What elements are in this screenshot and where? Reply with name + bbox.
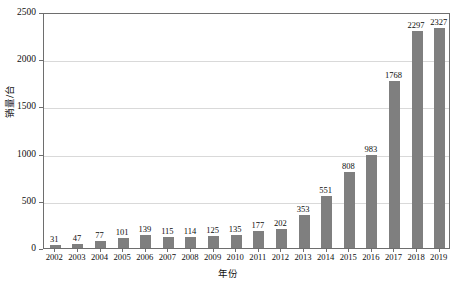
bar[interactable] (50, 245, 61, 248)
bar[interactable] (276, 229, 287, 248)
y-axis-tick-label: 2500 (0, 8, 36, 18)
bar-value-label: 353 (289, 205, 317, 214)
bar[interactable] (163, 237, 174, 248)
bar[interactable] (434, 28, 445, 248)
bar[interactable] (389, 81, 400, 248)
bar[interactable] (185, 237, 196, 248)
bar[interactable] (366, 155, 377, 248)
bar[interactable] (231, 235, 242, 248)
bar-value-label: 2327 (425, 18, 453, 27)
bar[interactable] (140, 235, 151, 248)
bar[interactable] (72, 244, 83, 248)
bar[interactable] (253, 231, 264, 248)
gridline (44, 61, 449, 62)
bar[interactable] (208, 236, 219, 248)
y-axis-tick-label: 1500 (0, 102, 36, 112)
y-axis-tick-label: 2000 (0, 55, 36, 65)
bar-value-label: 808 (334, 162, 362, 171)
bar-value-label: 983 (357, 145, 385, 154)
bar-value-label: 1768 (379, 71, 407, 80)
bar[interactable] (299, 215, 310, 248)
bar[interactable] (118, 238, 129, 248)
x-axis-title: 年份 (0, 266, 455, 280)
bar[interactable] (344, 172, 355, 248)
y-axis-tick-label: 0 (0, 244, 36, 254)
y-axis-tick-label: 500 (0, 197, 36, 207)
x-axis-tick-label: 2019 (426, 253, 452, 262)
plot-area (43, 13, 450, 249)
y-axis-tick-mark (39, 249, 43, 250)
bar-value-label: 202 (266, 219, 294, 228)
bar-value-label: 551 (312, 186, 340, 195)
bar[interactable] (95, 241, 106, 248)
y-axis-tick-label: 1000 (0, 150, 36, 160)
bar[interactable] (321, 196, 332, 248)
bar-chart: 销量/台 05001000150020002500 31477710113911… (0, 0, 455, 290)
y-axis-title: 销量/台 (2, 85, 16, 118)
bar[interactable] (412, 31, 423, 248)
